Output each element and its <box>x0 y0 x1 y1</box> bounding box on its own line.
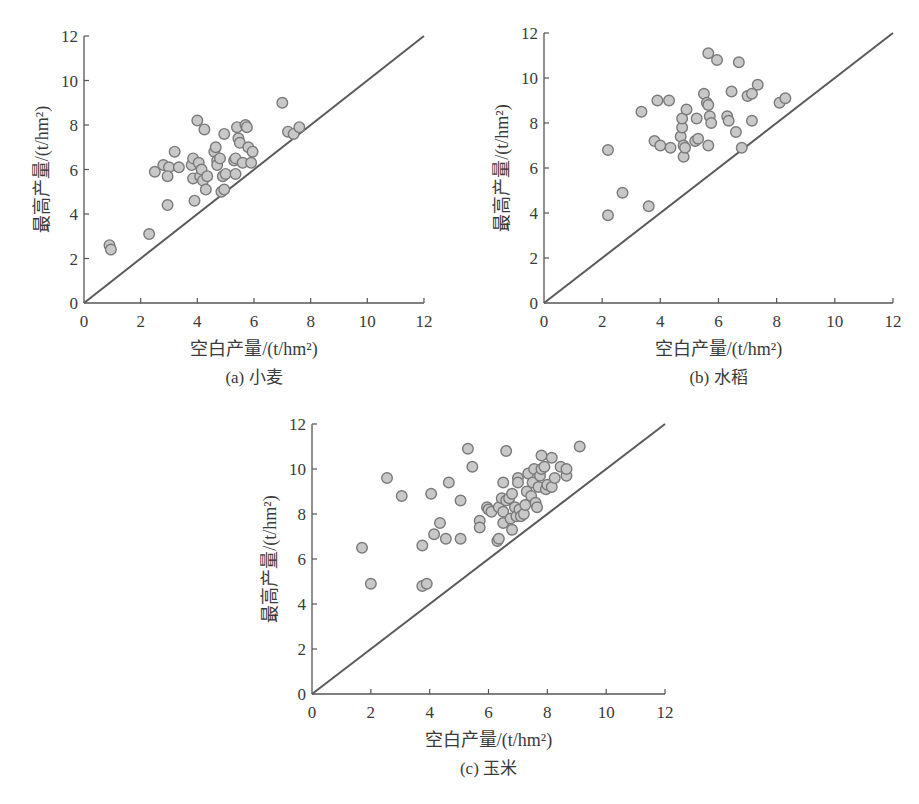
scatter-plot-b: 024681012024681012空白产量/(t/hm²)最高产量/(t/hm… <box>460 0 919 400</box>
data-point <box>532 502 543 513</box>
data-point <box>230 169 241 180</box>
scatter-plot-c: 024681012024681012空白产量/(t/hm²)最高产量/(t/hm… <box>228 404 688 804</box>
data-point <box>513 477 524 488</box>
data-point <box>366 578 377 589</box>
data-point <box>734 57 745 68</box>
data-point <box>494 533 505 544</box>
data-points <box>104 97 304 254</box>
y-tick-label: 10 <box>61 72 78 91</box>
data-point <box>219 184 230 195</box>
one-to-one-line <box>544 33 893 303</box>
y-tick-label: 0 <box>70 294 79 313</box>
data-point <box>246 158 257 169</box>
y-tick-label: 4 <box>70 205 79 224</box>
data-point <box>664 95 675 106</box>
data-point <box>561 464 572 475</box>
x-tick-label: 12 <box>415 312 432 331</box>
x-tick-label: 8 <box>543 703 552 722</box>
data-point <box>736 142 747 153</box>
chart-caption: (a) 小麦 <box>225 368 282 387</box>
data-point <box>549 473 560 484</box>
data-point <box>215 153 226 164</box>
data-point <box>417 540 428 551</box>
y-axis-label: 最高产量/(t/hm²) <box>260 495 281 622</box>
x-tick-label: 12 <box>884 312 901 331</box>
data-point <box>507 488 518 499</box>
x-tick-label: 2 <box>136 312 145 331</box>
data-point <box>507 524 518 535</box>
data-point <box>712 55 723 66</box>
data-point <box>144 229 155 240</box>
data-point <box>665 142 676 153</box>
x-tick-label: 6 <box>250 312 259 331</box>
data-point <box>703 100 714 111</box>
data-point <box>441 533 452 544</box>
data-point <box>603 145 614 156</box>
data-point <box>652 95 663 106</box>
one-to-one-line <box>312 424 665 694</box>
data-point <box>247 146 258 157</box>
x-tick-label: 4 <box>193 312 202 331</box>
data-point <box>539 461 550 472</box>
data-point <box>219 129 230 140</box>
data-point <box>174 162 185 173</box>
data-points <box>357 441 585 591</box>
data-point <box>747 115 758 126</box>
x-tick-label: 2 <box>367 703 376 722</box>
data-point <box>643 201 654 212</box>
x-axis-label: 空白产量/(t/hm²) <box>655 339 782 360</box>
data-point <box>681 104 692 115</box>
x-tick-label: 6 <box>484 703 493 722</box>
data-point <box>435 518 446 529</box>
y-tick-label: 12 <box>289 415 306 434</box>
y-tick-label: 8 <box>530 114 539 133</box>
data-point <box>501 446 512 457</box>
data-point <box>421 578 432 589</box>
data-point <box>655 140 666 151</box>
y-tick-label: 2 <box>70 250 79 269</box>
x-tick-label: 8 <box>772 312 781 331</box>
one-to-one-line <box>84 36 424 303</box>
data-point <box>703 140 714 151</box>
data-point <box>192 115 203 126</box>
data-point <box>162 200 173 211</box>
y-axis-label: 最高产量/(t/hm²) <box>492 104 513 231</box>
chart-panel-c: 024681012024681012空白产量/(t/hm²)最高产量/(t/hm… <box>228 404 688 804</box>
data-point <box>723 115 734 126</box>
data-point <box>444 477 455 488</box>
data-point <box>396 491 407 502</box>
data-point <box>455 495 466 506</box>
data-point <box>426 488 437 499</box>
data-point <box>189 195 200 206</box>
chart-panel-b: 024681012024681012空白产量/(t/hm²)最高产量/(t/hm… <box>460 0 919 400</box>
data-point <box>706 118 717 129</box>
x-axis-label: 空白产量/(t/hm²) <box>425 730 552 751</box>
data-point <box>242 122 253 133</box>
x-tick-label: 6 <box>714 312 723 331</box>
data-point <box>726 86 737 97</box>
x-tick-label: 10 <box>826 312 843 331</box>
y-axis-label: 最高产量/(t/hm²) <box>32 106 53 233</box>
x-tick-label: 10 <box>359 312 376 331</box>
data-point <box>382 473 393 484</box>
x-tick-label: 0 <box>80 312 89 331</box>
y-tick-label: 12 <box>61 27 78 46</box>
data-point <box>752 79 763 90</box>
data-point <box>536 450 547 461</box>
x-axis-label: 空白产量/(t/hm²) <box>190 339 317 360</box>
y-tick-label: 6 <box>298 550 307 569</box>
y-tick-label: 4 <box>298 595 307 614</box>
scatter-plot-a: 024681012024681012空白产量/(t/hm²)最高产量/(t/hm… <box>0 0 460 400</box>
data-point <box>463 443 474 454</box>
data-point <box>294 122 305 133</box>
y-tick-label: 4 <box>530 204 539 223</box>
x-tick-label: 4 <box>656 312 665 331</box>
data-point <box>680 142 691 153</box>
y-tick-label: 6 <box>530 159 539 178</box>
data-point <box>498 477 509 488</box>
data-point <box>201 184 212 195</box>
x-tick-label: 0 <box>308 703 317 722</box>
x-tick-label: 2 <box>598 312 607 331</box>
chart-caption: (b) 水稻 <box>689 368 747 387</box>
x-tick-label: 0 <box>540 312 549 331</box>
